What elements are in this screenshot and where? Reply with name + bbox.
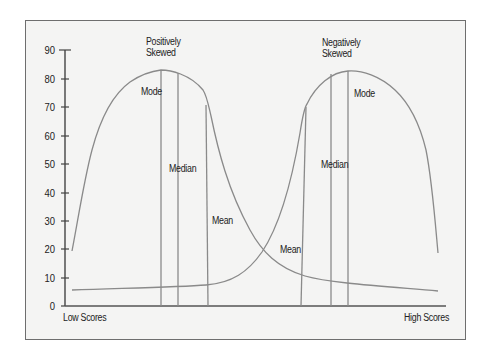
pos-mode-label: Mode [141, 86, 162, 98]
y-tick-label: 70 [35, 101, 55, 113]
negatively-skewed-curve [72, 71, 438, 290]
neg-mode-label: Mode [354, 88, 375, 100]
y-tick-label: 30 [35, 215, 55, 227]
positively-skewed-title-line2: Skewed [146, 47, 176, 59]
pos-mean-line [206, 105, 208, 306]
negatively-skewed-title-line2: Skewed [322, 48, 352, 60]
high-scores-label: High Scores [404, 312, 449, 324]
y-tick-label: 50 [35, 158, 55, 170]
y-tick-label: 60 [35, 130, 55, 142]
y-tick-label: 40 [35, 187, 55, 199]
y-tick-label: 10 [35, 272, 55, 284]
low-scores-label: Low Scores [63, 312, 106, 324]
y-tick-label: 0 [35, 300, 55, 312]
y-tick-label: 20 [35, 243, 55, 255]
pos-median-label: Median [169, 163, 196, 175]
neg-mean-label: Mean [280, 244, 301, 256]
y-tick-label: 80 [35, 73, 55, 85]
skewness-chart [0, 0, 492, 359]
pos-mean-label: Mean [212, 215, 233, 227]
neg-median-label: Median [321, 159, 348, 171]
positively-skewed-curve [72, 70, 438, 291]
y-tick-label: 90 [35, 44, 55, 56]
